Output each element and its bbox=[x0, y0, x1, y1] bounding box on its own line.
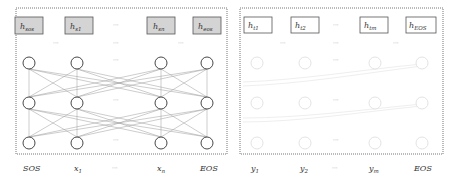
svg-text:ym: ym bbox=[368, 164, 379, 174]
svg-text:SOS: SOS bbox=[23, 164, 41, 173]
svg-text:···: ··· bbox=[53, 39, 59, 46]
svg-text:···: ··· bbox=[393, 39, 399, 46]
decoder-output-labels: y1 y2 ··· ym EOS bbox=[250, 164, 432, 174]
svg-text:···: ··· bbox=[333, 39, 339, 46]
svg-text:x1: x1 bbox=[74, 164, 82, 174]
decoder-connections bbox=[243, 64, 422, 122]
svg-text:···: ··· bbox=[112, 164, 118, 171]
seq2seq-diagram: hsos hs1 hsn heos ··· ··· ··· ··· ··· ··… bbox=[0, 0, 453, 180]
decoder-nodes bbox=[251, 57, 428, 149]
svg-text:y1: y1 bbox=[250, 164, 259, 174]
svg-text:y2: y2 bbox=[299, 164, 309, 174]
svg-text:···: ··· bbox=[332, 164, 338, 171]
svg-text:EOS: EOS bbox=[199, 164, 218, 173]
svg-text:···: ··· bbox=[333, 56, 339, 63]
svg-text:···: ··· bbox=[333, 96, 339, 103]
svg-text:···: ··· bbox=[333, 136, 339, 143]
encoder-connections bbox=[29, 69, 207, 137]
svg-text:EOS: EOS bbox=[413, 164, 432, 173]
svg-text:···: ··· bbox=[280, 39, 286, 46]
svg-text:···: ··· bbox=[333, 21, 339, 28]
svg-text:···: ··· bbox=[113, 39, 119, 46]
svg-text:···: ··· bbox=[113, 96, 119, 103]
svg-text:···: ··· bbox=[113, 136, 119, 143]
svg-text:···: ··· bbox=[113, 21, 119, 28]
svg-text:···: ··· bbox=[178, 39, 184, 46]
svg-text:···: ··· bbox=[113, 56, 119, 63]
svg-text:xn: xn bbox=[157, 164, 166, 174]
encoder-ellipsis: ··· ··· ··· ··· ··· ··· ··· bbox=[53, 21, 184, 143]
decoder-hidden-boxes: ht1 ht2 htm hEOS bbox=[244, 17, 436, 33]
encoder-input-labels: SOS x1 ··· xn EOS bbox=[23, 164, 218, 174]
